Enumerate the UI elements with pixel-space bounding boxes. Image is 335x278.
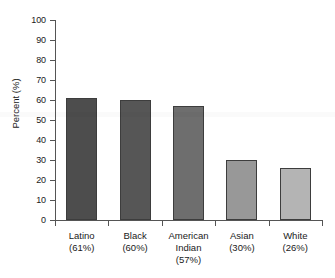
x-axis-label-name: Latino — [55, 230, 108, 242]
x-axis-label-name: Indian — [162, 242, 215, 254]
x-axis-line — [55, 220, 323, 221]
x-axis-label-percent: (61%) — [55, 242, 108, 254]
x-tick — [108, 221, 109, 226]
bar — [66, 98, 97, 220]
x-tick — [215, 221, 216, 226]
y-tick-label: 50 — [4, 116, 46, 125]
y-tick-label-wrap: 70 — [0, 76, 46, 85]
y-tick-label-wrap: 90 — [0, 36, 46, 45]
y-tick-label-wrap: 40 — [0, 136, 46, 145]
x-axis-label-name: White — [269, 230, 322, 242]
y-tick-label: 100 — [4, 16, 46, 25]
x-axis-label: White(26%) — [269, 230, 322, 254]
bar — [120, 100, 151, 220]
x-axis-label-percent: (57%) — [162, 254, 215, 266]
y-tick-label: 20 — [4, 176, 46, 185]
x-axis-label-percent: (30%) — [215, 242, 268, 254]
x-axis-label-percent: (26%) — [269, 242, 322, 254]
bar — [173, 106, 204, 220]
bar — [280, 168, 311, 220]
y-tick-label-wrap: 100 — [0, 16, 46, 25]
x-axis-label: AmericanIndian(57%) — [162, 230, 215, 266]
x-axis-label: Latino(61%) — [55, 230, 108, 254]
x-tick — [162, 221, 163, 226]
bar-chart: Percent (%) 0102030405060708090100 Latin… — [0, 0, 335, 278]
y-tick-label: 60 — [4, 96, 46, 105]
x-axis-label-name: Asian — [215, 230, 268, 242]
x-axis-label-percent: (60%) — [108, 242, 161, 254]
x-tick — [269, 221, 270, 226]
y-tick-label-wrap: 0 — [0, 216, 46, 225]
y-tick-label: 70 — [4, 76, 46, 85]
y-tick-label: 10 — [4, 196, 46, 205]
y-tick-label-wrap: 50 — [0, 116, 46, 125]
y-tick-label: 0 — [4, 216, 46, 225]
y-tick-label-wrap: 80 — [0, 56, 46, 65]
x-axis-label: Asian(30%) — [215, 230, 268, 254]
y-tick-label: 80 — [4, 56, 46, 65]
y-tick-label-wrap: 30 — [0, 156, 46, 165]
x-tick — [55, 221, 56, 226]
x-axis-label: Black(60%) — [108, 230, 161, 254]
x-axis-label-name: Black — [108, 230, 161, 242]
y-tick-label: 90 — [4, 36, 46, 45]
y-tick-label-wrap: 20 — [0, 176, 46, 185]
plot-area — [55, 20, 322, 220]
x-axis-label-name: American — [162, 230, 215, 242]
x-tick — [322, 221, 323, 226]
y-tick-label-wrap: 10 — [0, 196, 46, 205]
y-tick-label-wrap: 60 — [0, 96, 46, 105]
bar — [226, 160, 257, 220]
y-tick-label: 40 — [4, 136, 46, 145]
y-tick-label: 30 — [4, 156, 46, 165]
